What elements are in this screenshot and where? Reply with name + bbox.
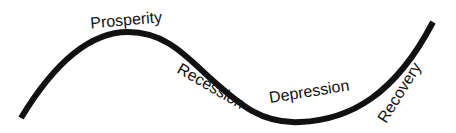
- phase-label-recession: Recession: [175, 60, 248, 112]
- business-cycle-diagram: Prosperity Recession Depression Recovery: [0, 0, 456, 133]
- phase-label-depression: Depression: [268, 77, 351, 106]
- cycle-curve: [21, 22, 433, 122]
- phase-label-prosperity: Prosperity: [90, 8, 163, 31]
